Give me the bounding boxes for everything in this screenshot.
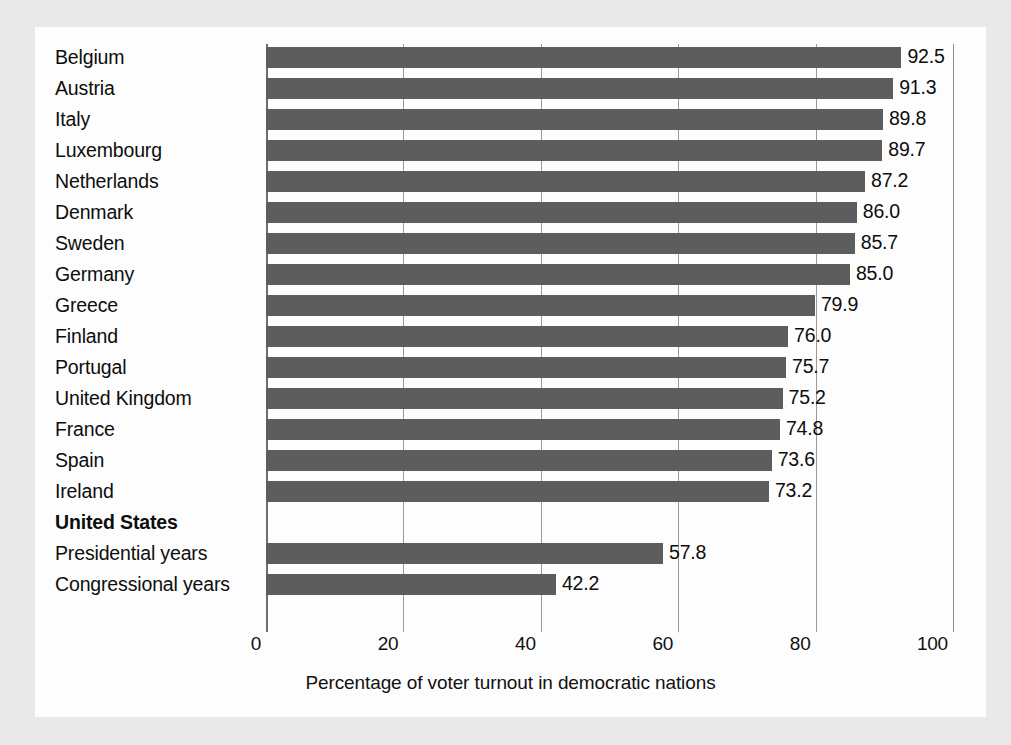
row-label: Presidential years [35,542,295,565]
row-label: Luxembourg [55,139,295,162]
bar [266,264,850,285]
chart-row: Finland76.0 [35,323,986,354]
row-label: Ireland [55,480,295,503]
row-label: Denmark [55,201,295,224]
bar-value-label: 85.7 [855,231,898,254]
x-axis-caption: Percentage of voter turnout in democrati… [35,672,986,694]
chart-row: United States [35,509,986,540]
bar-value-label: 89.8 [883,107,926,130]
bar [266,357,786,378]
bar [266,233,855,254]
bar-value-label: 91.3 [893,76,936,99]
chart-row: Austria91.3 [35,75,986,106]
bar-value-label: 75.2 [783,386,826,409]
row-label: Austria [55,77,295,100]
figure-page: Belgium92.5Austria91.3Italy89.8Luxembour… [0,0,1011,745]
bar [266,202,857,223]
chart-row: Denmark86.0 [35,199,986,230]
bar [266,388,783,409]
bar [266,481,769,502]
chart-row: Sweden85.7 [35,230,986,261]
bar-value-label: 42.2 [556,572,599,595]
figure-panel: Belgium92.5Austria91.3Italy89.8Luxembour… [35,27,986,717]
row-label: France [55,418,295,441]
bar [266,140,882,161]
row-label: Congressional years [35,573,295,596]
row-label: Sweden [55,232,295,255]
chart-row: Ireland73.2 [35,478,986,509]
chart-row: Congressional years42.2 [35,571,986,602]
bar [266,78,893,99]
bar-value-label: 75.7 [786,355,829,378]
chart-row: France74.8 [35,416,986,447]
row-label: Finland [55,325,295,348]
bar [266,171,865,192]
bar [266,326,788,347]
x-tick-label-100: 100 [917,633,953,655]
chart-row: Germany85.0 [35,261,986,292]
x-tick-label-0: 0 [251,633,266,655]
x-tick-label-60: 60 [652,633,678,655]
chart-row: Spain73.6 [35,447,986,478]
bar [266,574,556,595]
x-tick-label-20: 20 [378,633,404,655]
bar-value-label: 74.8 [780,417,823,440]
bar [266,295,815,316]
x-tick-label-40: 40 [515,633,541,655]
chart-row: Luxembourg89.7 [35,137,986,168]
bar [266,450,772,471]
bar-value-label: 76.0 [788,324,831,347]
chart-row: Presidential years57.8 [35,540,986,571]
bar-value-label: 85.0 [850,262,893,285]
bar-value-label: 89.7 [882,138,925,161]
row-label: Netherlands [55,170,295,193]
bar [266,47,901,68]
chart-row: Portugal75.7 [35,354,986,385]
row-label: Greece [55,294,295,317]
bar [266,419,780,440]
row-label: United States [55,511,295,534]
chart-row: Greece79.9 [35,292,986,323]
chart-row: Italy89.8 [35,106,986,137]
bar [266,109,883,130]
row-label: Portugal [55,356,295,379]
row-label: United Kingdom [55,387,295,410]
bar-chart-plot: Belgium92.5Austria91.3Italy89.8Luxembour… [35,27,986,717]
row-label: Spain [55,449,295,472]
chart-row: Belgium92.5 [35,44,986,75]
chart-row: United Kingdom75.2 [35,385,986,416]
bar-value-label: 79.9 [815,293,858,316]
row-label: Germany [55,263,295,286]
bar-value-label: 73.6 [772,448,815,471]
bar-value-label: 57.8 [663,541,706,564]
row-label: Belgium [55,46,295,69]
bar-value-label: 86.0 [857,200,900,223]
bar [266,543,663,564]
bar-value-label: 92.5 [901,45,944,68]
x-tick-label-80: 80 [790,633,816,655]
chart-row: Netherlands87.2 [35,168,986,199]
bar-value-label: 73.2 [769,479,812,502]
bar-value-label: 87.2 [865,169,908,192]
row-label: Italy [55,108,295,131]
